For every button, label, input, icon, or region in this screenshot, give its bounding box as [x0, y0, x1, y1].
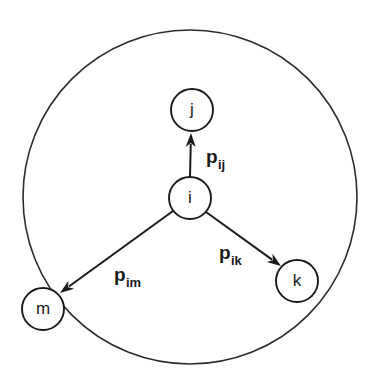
edge-label-i-j-base: p — [206, 146, 218, 167]
node-label-m: m — [36, 299, 50, 318]
edge-label-i-j-subscript: ij — [218, 157, 225, 172]
edge-label-i-m: p im — [114, 264, 141, 290]
arrow-head-i-m — [60, 281, 74, 293]
node-k[interactable]: k — [276, 260, 318, 302]
edge-line-i-j — [190, 144, 191, 177]
network-diagram: j i k m p ij p ik p im — [0, 0, 374, 386]
edge-label-i-k-subscript: ik — [231, 253, 243, 268]
edge-label-i-m-subscript: im — [126, 275, 141, 290]
edge-label-i-j: p ij — [206, 146, 225, 172]
node-j[interactable]: j — [171, 89, 213, 131]
node-i[interactable]: i — [169, 177, 211, 219]
node-label-k: k — [293, 271, 302, 290]
node-label-j: j — [189, 100, 194, 119]
edge-label-i-k: p ik — [219, 242, 243, 268]
edge-i-k — [206, 212, 281, 266]
edge-i-j — [186, 133, 196, 177]
node-m[interactable]: m — [22, 288, 64, 330]
node-label-i: i — [188, 188, 192, 207]
diagram-canvas: j i k m p ij p ik p im — [0, 0, 374, 386]
edge-label-i-k-base: p — [219, 242, 231, 263]
edge-label-i-m-base: p — [114, 264, 126, 285]
arrow-head-i-k — [267, 254, 281, 266]
